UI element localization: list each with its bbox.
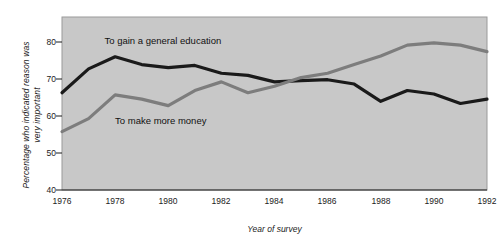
- y-axis-ticks: [56, 42, 62, 190]
- x-tick-label: 1976: [42, 196, 82, 206]
- x-tick-label: 1978: [95, 196, 135, 206]
- series-annotation-make-more-money: To make more money: [115, 115, 206, 126]
- x-tick-label: 1980: [148, 196, 188, 206]
- x-tick-label: 1992: [467, 196, 502, 206]
- series-annotation-general-education: To gain a general education: [105, 35, 222, 46]
- y-tick-label: 40: [30, 185, 56, 195]
- y-tick-label: 50: [30, 148, 56, 158]
- y-tick-label: 60: [30, 111, 56, 121]
- y-tick-label: 70: [30, 74, 56, 84]
- x-tick-label: 1986: [307, 196, 347, 206]
- y-axis-tick-labels: 80 70 60 50 40: [26, 0, 56, 244]
- chart-figure: Percentage who indicated reason was very…: [0, 0, 502, 244]
- plot-canvas: [0, 0, 502, 244]
- x-tick-label: 1990: [414, 196, 454, 206]
- y-tick-label: 80: [30, 37, 56, 47]
- x-tick-label: 1982: [201, 196, 241, 206]
- x-tick-label: 1984: [254, 196, 294, 206]
- x-tick-label: 1988: [361, 196, 401, 206]
- x-axis-label: Year of survey: [62, 224, 487, 234]
